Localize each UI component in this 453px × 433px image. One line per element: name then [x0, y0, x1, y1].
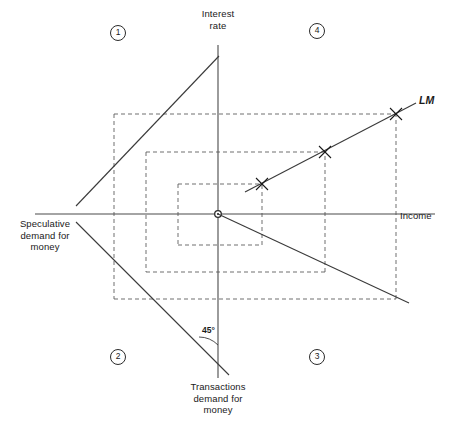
quadrant3-transactions-demand-line: [218, 214, 409, 303]
axis-label-interest-rate: Interest rate: [176, 8, 260, 31]
axes-group: [35, 45, 435, 378]
quadrant-number-2: 2: [110, 349, 126, 365]
lm-curve-line: [245, 103, 416, 192]
angle-arc-45: [199, 337, 218, 345]
angle-arc-group: [199, 337, 218, 345]
figure-canvas: Interest rate Transactions demand for mo…: [0, 0, 453, 433]
axis-label-transactions-demand: Transactions demand for money: [168, 381, 268, 416]
four-quadrant-diagram-svg: [0, 0, 453, 433]
schedule-lines: [76, 56, 416, 375]
axis-label-income: Income: [400, 210, 452, 222]
equilibrium-markers: [256, 108, 402, 190]
lm-curve-label: LM: [419, 94, 434, 106]
equilibrium-marker-c: [390, 108, 402, 120]
angle-label-45: 45°: [202, 325, 215, 335]
quadrant1-speculative-demand-line: [76, 56, 219, 206]
quadrant-number-4: 4: [309, 23, 325, 39]
construction-dashed-lines: [114, 114, 396, 299]
quadrant-number-3: 3: [309, 349, 325, 365]
quadrant-number-1: 1: [110, 25, 126, 41]
axis-label-speculative-demand: Speculative demand for money: [2, 218, 88, 253]
